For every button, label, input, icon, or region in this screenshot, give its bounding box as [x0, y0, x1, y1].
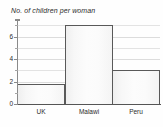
- x-axis-line: [17, 104, 161, 105]
- plot-area: [17, 22, 160, 104]
- x-axis-label-peru: Peru: [112, 108, 160, 116]
- y-axis-tick: [15, 70, 18, 71]
- y-axis-tick: [14, 37, 18, 38]
- chart-title: No. of children per woman: [11, 6, 95, 15]
- bar-peru: [112, 70, 160, 104]
- y-axis-tick: [15, 48, 18, 49]
- y-axis-tick: [15, 25, 18, 26]
- y-axis-tick: [14, 59, 18, 60]
- bar-chart: No. of children per woman 0246 UKMalawiP…: [0, 0, 163, 127]
- y-axis-tick-label: 6: [1, 34, 13, 40]
- x-axis-label-uk: UK: [17, 108, 65, 116]
- y-axis-tick: [14, 104, 18, 105]
- bar-uk: [17, 84, 65, 104]
- y-axis-ticks: 0246: [0, 0, 13, 127]
- y-axis-tick-label: 4: [1, 56, 13, 62]
- x-axis-label-malawi: Malawi: [65, 108, 113, 116]
- y-axis-tick-label: 0: [1, 101, 13, 107]
- y-axis-tick: [14, 82, 18, 83]
- bar-malawi: [65, 25, 113, 104]
- y-axis-tick: [15, 93, 18, 94]
- y-axis-tick-label: 2: [1, 79, 13, 85]
